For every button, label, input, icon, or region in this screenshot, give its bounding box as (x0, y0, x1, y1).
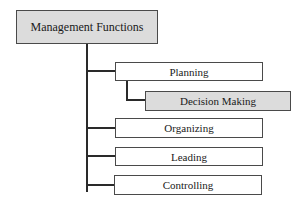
trunk-connector (86, 43, 88, 192)
node-planning: Planning (115, 62, 263, 81)
node-controlling: Controlling (114, 175, 262, 195)
connector-planning-to-decision-v (126, 80, 128, 101)
node-leading-label: Leading (171, 151, 207, 163)
connector-planning-to-decision-h (126, 99, 145, 101)
node-organizing: Organizing (115, 118, 263, 138)
connector-planning (86, 70, 115, 72)
connector-leading (86, 155, 115, 157)
node-leading: Leading (115, 147, 263, 166)
node-decision-making-label: Decision Making (180, 95, 256, 107)
node-organizing-label: Organizing (164, 122, 213, 134)
root-node-management-functions: Management Functions (16, 10, 158, 44)
root-node-label: Management Functions (31, 20, 144, 35)
connector-controlling (86, 184, 115, 186)
connector-organizing (86, 127, 115, 129)
node-planning-label: Planning (169, 66, 208, 78)
node-controlling-label: Controlling (163, 179, 214, 191)
node-decision-making: Decision Making (145, 91, 291, 111)
